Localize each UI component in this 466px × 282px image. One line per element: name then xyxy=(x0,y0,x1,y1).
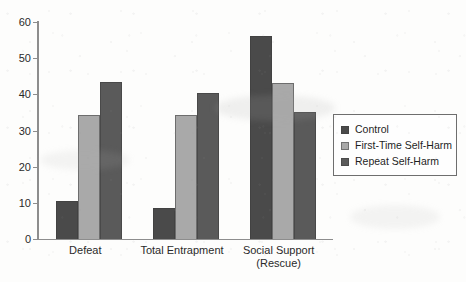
y-axis-tick-label: 50 xyxy=(19,53,31,64)
bar xyxy=(294,112,316,239)
bar xyxy=(56,201,78,239)
scan-smudge xyxy=(350,205,440,229)
bar xyxy=(153,208,175,239)
y-axis-tick-label: 40 xyxy=(19,89,31,100)
y-axis-tick-label: 0 xyxy=(25,234,31,245)
bar-group xyxy=(250,22,316,239)
bar xyxy=(272,83,294,239)
legend-swatch-icon xyxy=(341,126,349,134)
y-axis-tick-label: 10 xyxy=(19,197,31,208)
y-axis-tick-label: 20 xyxy=(19,161,31,172)
legend-item: Repeat Self-Harm xyxy=(341,156,450,167)
legend-swatch-icon xyxy=(341,158,349,166)
chart-legend: ControlFirst-Time Self-HarmRepeat Self-H… xyxy=(333,114,457,176)
plot-area: 0102030405060 xyxy=(37,22,327,239)
bar xyxy=(175,115,197,239)
y-axis-tick-label: 30 xyxy=(19,125,31,136)
legend-item-label: Repeat Self-Harm xyxy=(355,156,439,167)
y-axis-line xyxy=(37,21,39,240)
bar-group xyxy=(56,22,122,239)
legend-item: First-Time Self-Harm xyxy=(341,140,450,151)
bar xyxy=(250,36,272,239)
legend-item-label: Control xyxy=(355,124,389,135)
x-axis-category-label: Defeat xyxy=(37,244,134,257)
legend-item-label: First-Time Self-Harm xyxy=(355,140,452,151)
x-axis-category-label: Total Entrapment xyxy=(134,244,231,257)
x-axis-category-label: Social Support (Rescue) xyxy=(230,244,327,270)
bar-chart-figure: 0102030405060 ControlFirst-Time Self-Har… xyxy=(0,0,466,282)
y-axis-tick-label: 60 xyxy=(19,17,31,28)
legend-swatch-icon xyxy=(341,142,349,150)
bar xyxy=(100,82,122,239)
bar-group xyxy=(153,22,219,239)
x-axis-line xyxy=(37,239,333,240)
bar xyxy=(78,115,100,239)
legend-item: Control xyxy=(341,124,450,135)
bar xyxy=(197,93,219,239)
